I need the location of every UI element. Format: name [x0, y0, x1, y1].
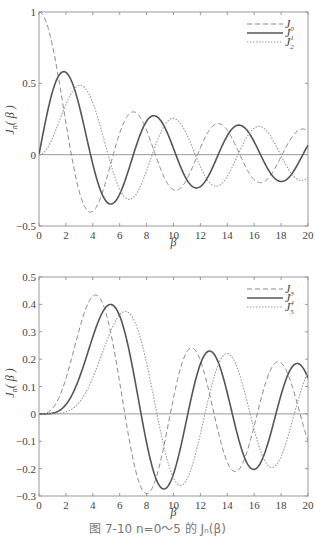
- x-tick-label: 14: [222, 229, 234, 241]
- figure: 0246810121416182010.50−0.5βJn( β )J0J1J2…: [0, 0, 315, 536]
- y-axis-label: Jn( β ): [3, 105, 19, 134]
- y-tick-label: 1: [31, 6, 37, 18]
- plot-frame: [39, 12, 308, 226]
- x-tick-label: 20: [303, 499, 315, 511]
- y-tick-label: 0.4: [22, 298, 36, 310]
- y-tick-label: 0: [31, 149, 37, 161]
- x-tick-label: 14: [222, 499, 234, 511]
- x-axis-label: β: [170, 505, 177, 519]
- x-tick-label: 12: [195, 229, 206, 241]
- y-tick-label: −0.2: [16, 463, 36, 475]
- x-tick-label: 12: [195, 499, 206, 511]
- y-tick-label: −0.3: [16, 490, 36, 502]
- x-tick-label: 18: [276, 499, 288, 511]
- y-axis-label: Jn( β ): [3, 368, 19, 397]
- x-tick-label: 16: [249, 499, 261, 511]
- chart-1: 0246810121416182010.50−0.5βJn( β )J0J1J2: [3, 6, 314, 249]
- x-tick-label: 0: [36, 499, 42, 511]
- series-J0: [39, 12, 308, 212]
- x-tick-label: 6: [117, 499, 123, 511]
- x-tick-label: 8: [144, 499, 150, 511]
- plot-frame: [39, 277, 308, 496]
- x-tick-label: 4: [90, 499, 96, 511]
- series-J3: [39, 295, 308, 494]
- series-J5: [39, 311, 308, 485]
- y-tick-label: 0.1: [22, 381, 36, 393]
- figure-caption: 图 7-10 n=0～5 的 Jₙ(β): [0, 519, 315, 536]
- x-tick-label: 18: [276, 229, 288, 241]
- y-tick-label: −0.1: [16, 435, 36, 447]
- y-tick-label: −0.5: [16, 220, 36, 232]
- x-tick-label: 2: [63, 229, 69, 241]
- x-tick-label: 4: [90, 229, 96, 241]
- y-tick-label: 0: [31, 408, 37, 420]
- chart-2: 024681012141618200.50.40.30.20.10−0.1−0.…: [3, 271, 314, 519]
- y-tick-label: 0.3: [22, 326, 36, 338]
- x-tick-label: 20: [303, 229, 315, 241]
- y-tick-label: 0.5: [22, 77, 36, 89]
- series-J1: [39, 72, 308, 204]
- x-tick-label: 16: [249, 229, 261, 241]
- y-tick-label: 0.2: [22, 353, 36, 365]
- y-tick-label: 0.5: [22, 271, 36, 283]
- x-tick-label: 8: [144, 229, 150, 241]
- series-J2: [39, 85, 308, 199]
- x-tick-label: 6: [117, 229, 123, 241]
- x-axis-label: β: [170, 235, 177, 249]
- x-tick-label: 0: [36, 229, 42, 241]
- x-tick-label: 2: [63, 499, 69, 511]
